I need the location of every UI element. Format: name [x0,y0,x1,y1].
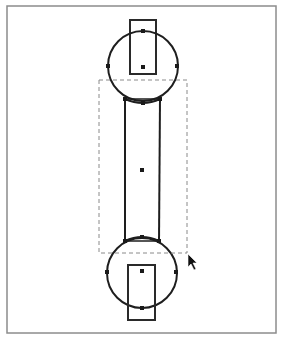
top-rect-center-handle[interactable] [141,65,145,69]
vertex-handle[interactable] [106,64,110,68]
vertex-handle[interactable] [105,270,109,274]
drawing-canvas[interactable] [0,0,281,339]
vertex-handle[interactable] [141,29,145,33]
vertex-handle[interactable] [175,64,179,68]
vertex-handle[interactable] [140,306,144,310]
bottom-rect-center-handle[interactable] [140,269,144,273]
vertex-handle[interactable] [141,101,145,105]
tube-right-edge[interactable] [159,99,160,241]
vertex-handle[interactable] [123,239,127,243]
vertex-handle[interactable] [174,270,178,274]
vertex-handle[interactable] [157,239,161,243]
tube-center-handle[interactable] [140,168,144,172]
vertex-handle[interactable] [158,97,162,101]
vertex-handle[interactable] [123,97,127,101]
vertex-handle[interactable] [140,235,144,239]
